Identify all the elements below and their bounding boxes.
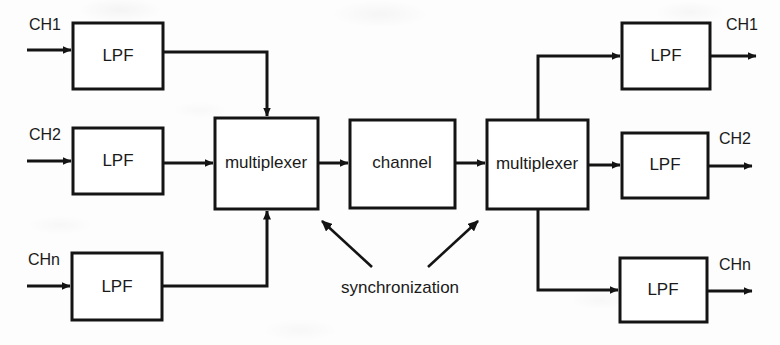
connector-mux-rx-to-lpf-out-1 [538,56,620,120]
block-label-lpf-input-n: LPF [101,277,132,296]
sync-arrow-to-mux-rx [428,221,478,267]
output-label-ch2: CH2 [719,130,751,147]
block-label-lpf-input-1: LPF [102,46,133,65]
output-label-ch1: CH1 [726,16,758,33]
block-label-multiplexer-rx: multiplexer [496,154,579,173]
diagram-canvas: LPF LPF LPF multiplexer channel multiple… [0,0,780,345]
block-label-multiplexer-tx: multiplexer [225,153,308,172]
input-label-ch2: CH2 [29,126,61,143]
connector-mux-rx-to-lpf-out-n [538,209,618,290]
block-label-lpf-output-n: LPF [647,280,678,299]
block-label-channel: channel [372,153,432,172]
block-label-lpf-output-2: LPF [649,155,680,174]
block-diagram: LPF LPF LPF multiplexer channel multiple… [0,0,780,345]
synchronization-label: synchronization [341,278,459,297]
connector-lpf1-to-mux-tx [163,52,267,116]
block-label-lpf-input-2: LPF [102,151,133,170]
output-label-chn: CHn [719,256,751,273]
connector-lpfn-to-mux-tx [162,211,267,286]
sync-arrow-to-mux-tx [322,221,372,267]
block-label-lpf-output-1: LPF [650,46,681,65]
input-label-chn: CHn [28,251,60,268]
input-label-ch1: CH1 [29,16,61,33]
